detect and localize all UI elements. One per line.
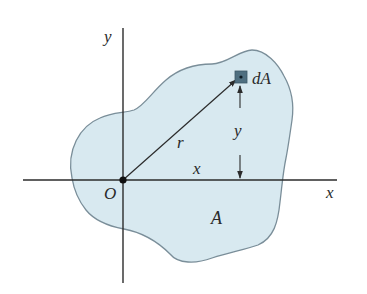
area-element-diagram: y x O dA r x y A — [0, 0, 367, 294]
y-axis-label: y — [102, 27, 112, 46]
x-distance-label: x — [192, 159, 201, 178]
origin-label: O — [104, 184, 116, 203]
element-label: dA — [252, 69, 272, 88]
y-distance-label: y — [232, 121, 242, 140]
origin-dot — [119, 176, 126, 183]
x-axis-label: x — [325, 183, 334, 202]
radius-label: r — [177, 133, 184, 152]
area-element-dot — [239, 75, 242, 78]
region-label: A — [210, 208, 223, 228]
diagram-canvas: y x O dA r x y A — [0, 0, 367, 294]
